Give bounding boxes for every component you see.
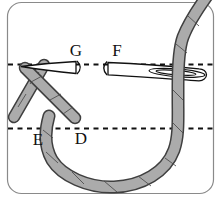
label-e: E [33,131,43,148]
label-d: D [75,130,87,147]
label-g: G [70,42,82,59]
label-f: F [112,42,121,59]
working-thread [43,0,207,192]
diagram-drawing [0,0,220,205]
hole-mark-g [77,61,80,74]
stitch-diagram: G F E D [0,0,220,205]
